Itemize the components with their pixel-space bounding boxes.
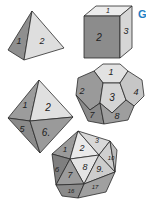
- icosahedron-label-16: 16: [68, 188, 75, 194]
- tetrahedron-label-1: 1: [16, 36, 21, 46]
- cube-label-2: 2: [95, 32, 102, 43]
- icosahedron-label-8: 8: [82, 162, 87, 172]
- icosahedron-label-2: 2: [78, 143, 84, 153]
- tetrahedron-label-2: 2: [38, 36, 44, 46]
- octahedron-label-1: 1: [22, 100, 27, 110]
- dodecahedron-label-1: 1: [108, 67, 113, 77]
- dodecahedron-label-2: 2: [78, 86, 84, 96]
- side-label: G: [138, 8, 146, 20]
- dodecahedron-label-8: 8: [114, 111, 119, 121]
- icosahedron-label-6: 6: [55, 165, 60, 174]
- octahedron-label-6: 6.: [42, 127, 50, 138]
- dodecahedron-label-3: 3: [109, 92, 115, 103]
- polyhedral-dice-figure: 1 2 1 2 3 1 2 3 4 7 8 1 2 5 6.: [0, 0, 146, 200]
- icosahedron-label-1: 1: [63, 145, 67, 154]
- icosahedron-label-17: 17: [92, 184, 99, 190]
- cube: 1 2 3: [84, 6, 132, 58]
- octahedron: 1 2 5 6.: [8, 80, 73, 153]
- cube-face-2: [84, 16, 120, 58]
- dodecahedron-label-4: 4: [133, 87, 138, 97]
- cube-label-3: 3: [123, 26, 128, 36]
- cube-label-1: 1: [106, 7, 110, 14]
- tetrahedron: 1 2: [8, 11, 64, 60]
- icosahedron: 1 2 3 6 7 8 9. 10 16 17: [52, 131, 117, 198]
- octahedron-label-2: 2: [44, 102, 51, 113]
- icosahedron-label-9: 9.: [96, 164, 104, 174]
- dodecahedron: 1 2 3 4 7 8: [76, 64, 144, 124]
- icosahedron-label-10: 10: [108, 155, 115, 161]
- icosahedron-label-3: 3: [95, 137, 99, 144]
